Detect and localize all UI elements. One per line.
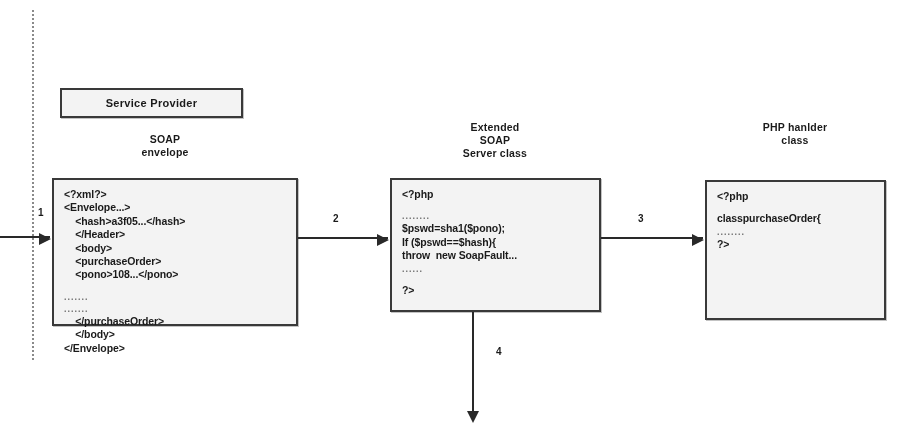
code-line: <pono>108...</pono>: [64, 268, 286, 281]
service-provider-boundary-line: [32, 10, 34, 360]
extended-soap-server-box: <?php........$pswd=sha1($pono);If ($pswd…: [390, 178, 601, 312]
arrow-3-label: 3: [638, 213, 644, 224]
code-line: </purchaseOrder>: [64, 315, 286, 328]
caption-line: Server class: [425, 147, 565, 160]
caption-php-handler-class: PHP hanlder class: [725, 121, 865, 147]
soap-envelope-box: <?xml?><Envelope...> <hash>a3f05...</has…: [52, 178, 298, 326]
code-line: <hash>a3f05...</hash>: [64, 215, 286, 228]
code-line: classpurchaseOrder{: [717, 212, 874, 225]
code-spacer: [717, 203, 874, 212]
code-line: <body>: [64, 242, 286, 255]
code-ellipsis: .......: [64, 303, 286, 315]
service-provider-box: Service Provider: [60, 88, 243, 118]
arrow-4-label: 4: [496, 346, 502, 357]
arrow-4: [472, 312, 474, 412]
code-line: ?>: [402, 284, 589, 297]
code-line: </body>: [64, 328, 286, 341]
caption-line: Extended: [425, 121, 565, 134]
arrow-1-label: 1: [38, 207, 44, 218]
code-line: $pswd=sha1($pono);: [402, 222, 589, 235]
code-ellipsis: ........: [402, 210, 589, 222]
arrow-2: [298, 237, 388, 239]
caption-line: PHP hanlder: [725, 121, 865, 134]
arrow-2-label: 2: [333, 213, 339, 224]
code-line: throw new SoapFault...: [402, 249, 589, 262]
caption-extended-soap-server-class: Extended SOAP Server class: [425, 121, 565, 160]
code-line: </Header>: [64, 228, 286, 241]
arrow-1: [0, 236, 50, 238]
caption-line: class: [725, 134, 865, 147]
code-ellipsis: ........: [717, 226, 874, 238]
code-ellipsis: .......: [64, 291, 286, 303]
caption-soap-envelope: SOAP envelope: [105, 133, 225, 159]
php-handler-box: <?phpclasspurchaseOrder{........?>: [705, 180, 886, 320]
caption-line: envelope: [105, 146, 225, 159]
code-line: <?xml?>: [64, 188, 286, 201]
code-line: <Envelope...>: [64, 201, 286, 214]
code-spacer: [64, 282, 286, 291]
code-line: <?php: [402, 188, 589, 201]
code-line: ?>: [717, 238, 874, 251]
code-spacer: [402, 275, 589, 284]
code-line: </Envelope>: [64, 342, 286, 355]
caption-line: SOAP: [105, 133, 225, 146]
code-line: If ($pswd==$hash){: [402, 236, 589, 249]
code-line: <?php: [717, 190, 874, 203]
code-spacer: [402, 201, 589, 210]
caption-line: SOAP: [425, 134, 565, 147]
diagram-canvas: Service Provider SOAP envelope Extended …: [0, 0, 908, 435]
arrow-3: [601, 237, 703, 239]
service-provider-label: Service Provider: [106, 97, 198, 109]
code-ellipsis: ......: [402, 263, 589, 275]
code-line: <purchaseOrder>: [64, 255, 286, 268]
